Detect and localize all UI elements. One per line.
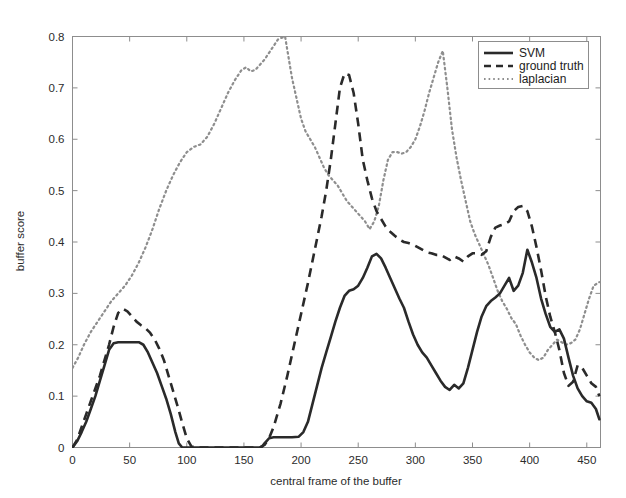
chart-figure: 050100150200250300350400450 00.10.20.30.… [0, 0, 626, 498]
y-axis-tick-labels: 00.10.20.30.40.50.60.70.8 [49, 31, 66, 454]
y-tick-label: 0.8 [49, 31, 65, 43]
x-tick-label: 0 [69, 454, 75, 466]
chart-canvas: 050100150200250300350400450 00.10.20.30.… [0, 0, 626, 498]
x-axis-title: central frame of the buffer [270, 475, 402, 487]
x-tick-label: 250 [349, 454, 368, 466]
x-tick-label: 150 [234, 454, 253, 466]
legend-label-svm: SVM [519, 46, 545, 60]
y-axis-title: buffer score [14, 211, 26, 272]
x-tick-label: 300 [406, 454, 425, 466]
y-tick-label: 0 [58, 442, 64, 454]
x-tick-label: 100 [177, 454, 196, 466]
y-tick-label: 0.4 [49, 236, 66, 248]
y-tick-label: 0.7 [49, 82, 65, 94]
x-tick-label: 400 [520, 454, 539, 466]
series-line-svm [73, 250, 600, 448]
y-tick-label: 0.3 [49, 287, 65, 299]
x-axis-ticks [73, 37, 587, 448]
y-tick-label: 0.6 [49, 133, 65, 145]
y-axis-ticks [73, 37, 601, 448]
y-tick-label: 0.1 [49, 390, 65, 402]
series-line-ground-truth [73, 73, 600, 447]
plot-frame [73, 37, 601, 448]
x-axis-tick-labels: 050100150200250300350400450 [69, 454, 596, 466]
y-tick-label: 0.2 [49, 339, 65, 351]
legend-label-laplacian: laplacian [519, 72, 566, 86]
legend[interactable]: SVM ground truth laplacian [479, 42, 589, 89]
legend-label-ground-truth: ground truth [519, 59, 584, 73]
y-tick-label: 0.5 [49, 185, 65, 197]
x-tick-label: 450 [577, 454, 596, 466]
x-tick-label: 350 [463, 454, 482, 466]
data-series-group [73, 37, 600, 448]
x-tick-label: 50 [123, 454, 136, 466]
x-tick-label: 200 [291, 454, 310, 466]
